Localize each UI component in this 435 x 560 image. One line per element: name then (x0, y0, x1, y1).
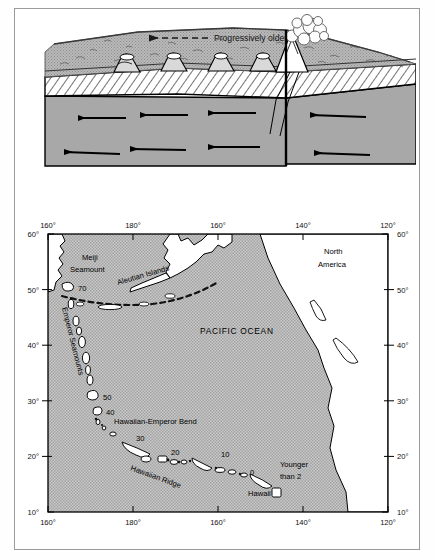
hawaiian-emperor-bend-label: Hawaiian-Emperor Bend (114, 417, 197, 426)
lon-label-bottom-2: 160° (210, 518, 226, 527)
meiji-seamount-label-line1: Meiji (82, 253, 98, 262)
lat-label-right-10: 10° (397, 508, 408, 517)
figure-page: Progressively older (0, 0, 435, 560)
lat-label-left-60: 60° (28, 230, 39, 239)
age-label-70: 70 (78, 284, 86, 293)
lat-label-right-50: 50° (397, 286, 408, 295)
lat-label-left-10: 10° (28, 508, 39, 517)
lon-label-top-1: 180° (125, 221, 141, 230)
age-label-30: 30 (136, 434, 144, 443)
cross-section-diagram: Progressively older (18, 14, 416, 182)
age-label-0: 0 (250, 468, 254, 477)
age-label-10: 10 (221, 450, 229, 459)
lon-label-bottom-0: 160° (40, 518, 56, 527)
lat-label-right-60: 60° (397, 230, 408, 239)
north-america-label-line2: America (318, 260, 347, 269)
lat-label-right-40: 40° (397, 341, 408, 350)
lon-label-bottom-3: 140° (295, 518, 311, 527)
eruption-plume-icon (286, 15, 329, 46)
pacific-map: 160° 180° 160° 140° 120° 160° 180° 160° … (18, 212, 418, 542)
lon-label-top-2: 160° (210, 221, 226, 230)
hawaii-island (272, 488, 281, 497)
younger-than-label-line1: Younger (280, 460, 308, 469)
seamount-40 (93, 407, 102, 415)
pacific-ocean-label: PACIFIC OCEAN (200, 326, 274, 336)
age-label-50: 50 (103, 393, 111, 402)
progressively-older-label: Progressively older (214, 33, 287, 43)
lon-label-top-3: 140° (295, 221, 311, 230)
lat-label-left-30: 30° (28, 397, 39, 406)
seamount-50 (87, 390, 98, 400)
north-america-label-line1: North (324, 247, 343, 256)
lat-label-left-20: 20° (28, 452, 39, 461)
age-label-20: 20 (171, 448, 179, 457)
meiji-seamount (62, 282, 74, 291)
lat-label-right-30: 30° (397, 397, 408, 406)
lon-label-top-0: 160° (40, 221, 56, 230)
younger-than-label-line2: than 2 (280, 472, 301, 481)
hawaii-label: Hawaii (248, 489, 271, 498)
lon-label-top-4: 120° (380, 221, 396, 230)
lon-label-bottom-1: 180° (125, 518, 141, 527)
lat-label-left-50: 50° (28, 286, 39, 295)
lon-label-bottom-4: 120° (380, 518, 396, 527)
age-label-40: 40 (106, 408, 114, 417)
lat-label-left-40: 40° (28, 341, 39, 350)
meiji-seamount-label-line2: Seamount (70, 265, 106, 274)
lat-label-right-20: 20° (397, 452, 408, 461)
